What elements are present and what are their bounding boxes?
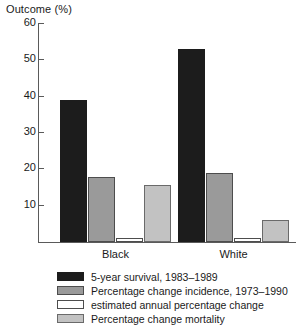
legend-swatch bbox=[57, 272, 84, 281]
y-tick-label: 10 bbox=[24, 198, 36, 210]
bar bbox=[88, 177, 115, 242]
y-tick-label: 40 bbox=[24, 89, 36, 101]
y-axis-title: Outcome (%) bbox=[6, 3, 72, 15]
bar bbox=[178, 49, 205, 242]
x-axis-line bbox=[38, 242, 296, 243]
y-tick: 10 bbox=[2, 205, 46, 206]
y-tick-label: 50 bbox=[24, 52, 36, 64]
legend-label: Percentage change incidence, 1973–1990 bbox=[91, 285, 288, 297]
legend-item: Percentage change mortality bbox=[57, 312, 302, 325]
legend-label: estimated annual percentage change bbox=[91, 299, 264, 311]
y-tick-mark bbox=[38, 132, 44, 133]
bar bbox=[262, 220, 289, 242]
plot-area: 102030405060 BlackWhite bbox=[38, 24, 296, 243]
legend-swatch bbox=[57, 300, 84, 309]
y-tick-mark bbox=[38, 205, 44, 206]
bar bbox=[144, 185, 171, 242]
legend-item: 5-year survival, 1983–1989 bbox=[57, 270, 302, 283]
y-tick: 50 bbox=[2, 59, 46, 60]
bar-group: Black bbox=[60, 24, 171, 242]
y-tick-mark bbox=[38, 23, 44, 24]
chart-legend: 5-year survival, 1983–1989Percentage cha… bbox=[57, 270, 302, 326]
legend-swatch bbox=[57, 314, 84, 323]
legend-label: 5-year survival, 1983–1989 bbox=[91, 271, 218, 283]
y-tick-mark bbox=[38, 59, 44, 60]
bar bbox=[116, 238, 143, 242]
x-axis-group-label: Black bbox=[60, 248, 171, 260]
y-axis-line bbox=[38, 24, 39, 243]
bar bbox=[234, 238, 261, 242]
y-tick-label: 20 bbox=[24, 161, 36, 173]
bar bbox=[206, 173, 233, 242]
bar-chart-figure: Outcome (%) 102030405060 BlackWhite 5-ye… bbox=[0, 0, 306, 326]
bar bbox=[60, 100, 87, 242]
legend-swatch bbox=[57, 286, 84, 295]
bar-group: White bbox=[178, 24, 289, 242]
legend-label: Percentage change mortality bbox=[91, 313, 225, 325]
y-tick: 30 bbox=[2, 132, 46, 133]
legend-item: Percentage change incidence, 1973–1990 bbox=[57, 284, 302, 297]
y-tick-mark bbox=[38, 96, 44, 97]
y-tick: 60 bbox=[2, 23, 46, 24]
y-tick-mark bbox=[38, 168, 44, 169]
y-tick-label: 30 bbox=[24, 125, 36, 137]
legend-item: estimated annual percentage change bbox=[57, 298, 302, 311]
y-tick: 20 bbox=[2, 168, 46, 169]
y-tick: 40 bbox=[2, 96, 46, 97]
x-axis-group-label: White bbox=[178, 248, 289, 260]
y-tick-label: 60 bbox=[24, 16, 36, 28]
